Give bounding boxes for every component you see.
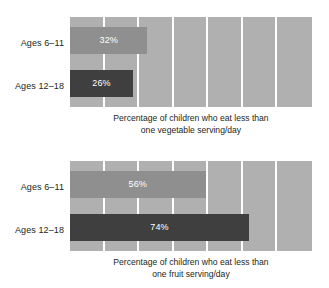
- bar-value-label-ages-6-11: 32%: [100, 27, 118, 54]
- gridline: [275, 17, 277, 107]
- caption-line-1: Percentage of children who eat less than: [70, 256, 312, 268]
- category-label-ages-12-18: Ages 12–18: [0, 81, 64, 91]
- plot-panel: 56% 74%: [70, 161, 312, 251]
- figure-sheet: Ages 6–11 Ages 12–18 32% 26% Percentage …: [0, 0, 329, 288]
- category-label-ages-6-11: Ages 6–11: [0, 38, 64, 48]
- plot-panel: 32% 26%: [70, 17, 312, 107]
- chart-block-fruit: Ages 6–11 Ages 12–18 56% 74% Percentage …: [0, 144, 329, 288]
- chart-block-vegetable: Ages 6–11 Ages 12–18 32% 26% Percentage …: [0, 0, 329, 144]
- caption-line-2: one fruit serving/day: [70, 268, 312, 280]
- bar-value-label-ages-6-11: 56%: [129, 171, 147, 198]
- chart-caption: Percentage of children who eat less than…: [70, 256, 312, 280]
- caption-line-1: Percentage of children who eat less than: [70, 112, 312, 124]
- bar-value-label-ages-12-18: 74%: [150, 214, 168, 241]
- bar-value-label-ages-12-18: 26%: [92, 70, 110, 97]
- caption-line-2: one vegetable serving/day: [70, 124, 312, 136]
- category-label-ages-6-11: Ages 6–11: [0, 182, 64, 192]
- gridline: [241, 17, 243, 107]
- gridline: [206, 17, 208, 107]
- gridline: [172, 17, 174, 107]
- category-label-ages-12-18: Ages 12–18: [0, 225, 64, 235]
- gridline: [275, 161, 277, 251]
- chart-caption: Percentage of children who eat less than…: [70, 112, 312, 136]
